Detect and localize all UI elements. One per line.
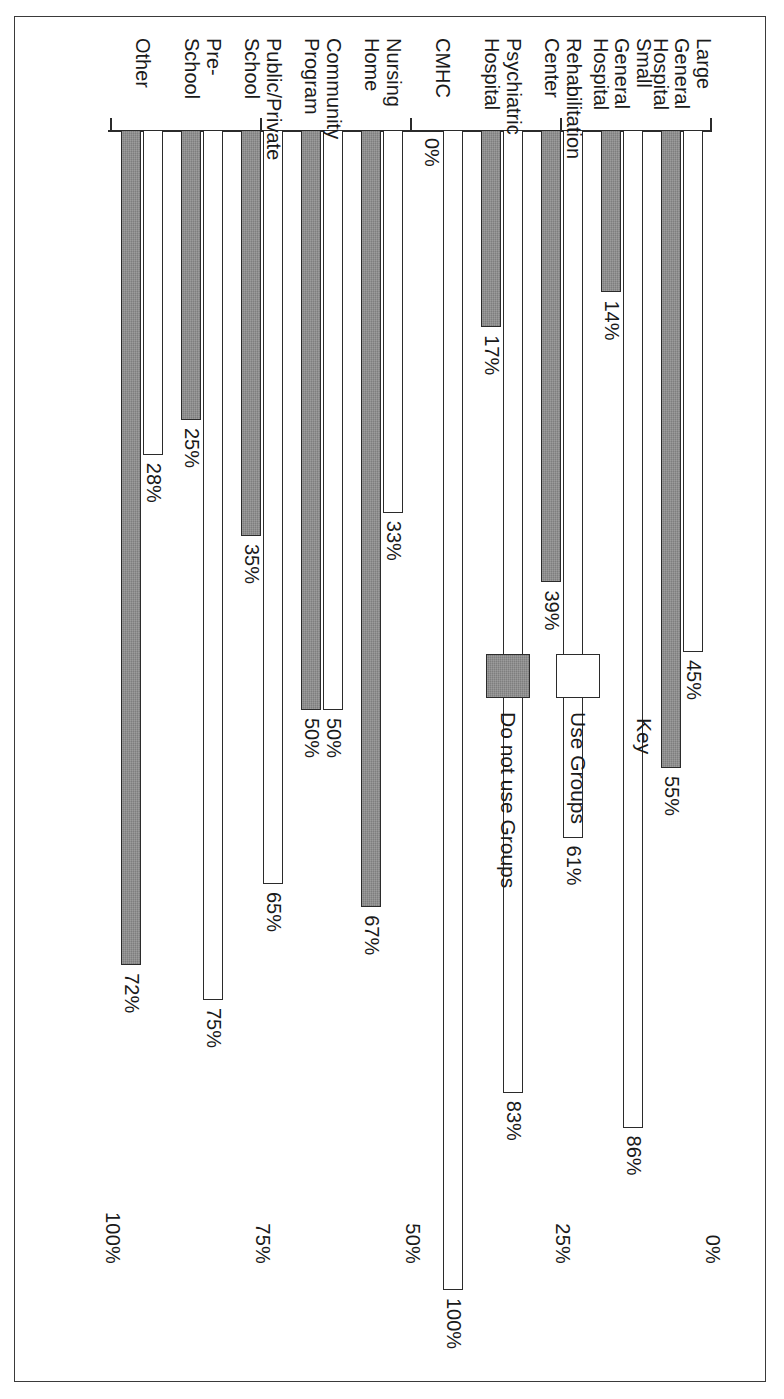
axis-tick-mark: [410, 118, 412, 130]
category-label: Other: [131, 38, 153, 124]
bar-value-label: 28%: [142, 463, 165, 503]
bar-use-groups: [203, 130, 223, 1000]
chart-stage: 0%25%50%75%100% 45%55%Large General Hosp…: [32, 34, 748, 1364]
axis-tick-label: 75%: [251, 1223, 274, 1264]
axis-tick-label: 100%: [101, 1212, 124, 1264]
axis-tick-mark: [110, 118, 112, 130]
legend-label-use-groups: Use Groups: [566, 712, 590, 824]
bar-do-not-use-groups: [361, 130, 381, 907]
category-label: CMHC: [431, 38, 453, 124]
bar-do-not-use-groups: [481, 130, 501, 327]
bar-value-label: 67%: [360, 915, 383, 955]
legend-swatch-light-icon: [556, 654, 600, 698]
category-label: Rehabilitation Center: [540, 38, 583, 124]
category-label: Community Program: [300, 38, 343, 124]
axis-tick-label: 50%: [401, 1223, 424, 1264]
bar-do-not-use-groups: [181, 130, 201, 420]
category-label: Nursing Home: [360, 38, 403, 124]
bar-use-groups: [683, 130, 703, 652]
category-label: Public/Private School: [240, 38, 283, 124]
bar-value-label: 35%: [240, 544, 263, 584]
chart-legend: Key Use Groups Do not use Groups: [456, 654, 656, 994]
bar-value-label: 50%: [300, 718, 323, 758]
axis-tick-label: 0%: [701, 1235, 724, 1264]
legend-swatch-dark-icon: [486, 654, 530, 698]
bar-do-not-use-groups: [541, 130, 561, 582]
bar-do-not-use-groups: [301, 130, 321, 710]
bar-value-label: 65%: [262, 892, 285, 932]
axis-tick-label: 25%: [551, 1223, 574, 1264]
category-label: Large General Hospital: [650, 38, 715, 124]
bar-value-label: 25%: [180, 428, 203, 468]
legend-entry-do-not-use-groups: Do not use Groups: [486, 654, 530, 888]
category-label: Pre-School: [180, 38, 223, 124]
bar-do-not-use-groups: [601, 130, 621, 292]
bar-value-label: 33%: [382, 521, 405, 561]
legend-label-do-not-use-groups: Do not use Groups: [496, 712, 520, 888]
bar-value-label: 75%: [202, 1008, 225, 1048]
legend-entry-use-groups: Use Groups: [556, 654, 600, 824]
bar-do-not-use-groups: [661, 130, 681, 768]
bar-use-groups: [263, 130, 283, 884]
bar-value-label: 55%: [660, 776, 683, 816]
chart-page: 0%25%50%75%100% 45%55%Large General Hosp…: [0, 0, 784, 1399]
bar-value-label: 50%: [322, 718, 345, 758]
category-label: Small General Hospital: [590, 38, 655, 124]
bar-value-label: 83%: [502, 1101, 525, 1141]
bar-use-groups: [383, 130, 403, 513]
bar-value-label: 17%: [480, 335, 503, 375]
category-label: Psychiatric Hospital: [480, 38, 523, 124]
legend-title: Key: [632, 718, 656, 754]
bar-value-label: 86%: [622, 1136, 645, 1176]
bar-value-label: 100%: [442, 1298, 465, 1349]
bar-use-groups: [143, 130, 163, 455]
bar-value-label: 72%: [120, 973, 143, 1013]
bar-value-label: 0%: [420, 138, 443, 167]
bar-do-not-use-groups: [241, 130, 261, 536]
bar-value-label: 14%: [600, 300, 623, 340]
bar-do-not-use-groups: [121, 130, 141, 965]
bar-use-groups: [323, 130, 343, 710]
figure-frame: 0%25%50%75%100% 45%55%Large General Hosp…: [14, 16, 766, 1382]
bar-value-label: 39%: [540, 590, 563, 630]
bar-value-label: 45%: [682, 660, 705, 700]
